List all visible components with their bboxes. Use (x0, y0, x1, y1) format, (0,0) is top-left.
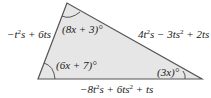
angle-label-bottom-right: (3x)° (157, 67, 179, 78)
side-label-bottom: −8t2s + 6ts2 + ts (80, 84, 153, 95)
side-label-left: −t2s + 6ts (7, 29, 51, 40)
angle-label-top: (8x + 3)° (62, 24, 103, 35)
side-label-right: 4t2s − 3ts2 + 2ts (138, 29, 209, 40)
angle-label-bottom-left: (6x + 7)° (56, 60, 97, 71)
